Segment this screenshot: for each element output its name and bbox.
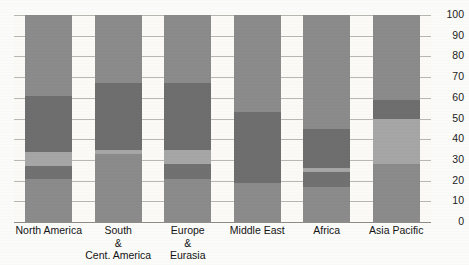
- bar-segment: [373, 164, 420, 222]
- y-tick-label-60: 60: [434, 92, 464, 103]
- x-axis-category-label: Asia Pacific: [348, 224, 444, 237]
- bar-segment: [164, 164, 211, 178]
- bar-segment: [164, 179, 211, 222]
- gridline-30: [14, 160, 431, 161]
- y-tick-label-40: 40: [434, 133, 464, 144]
- bar-segment: [95, 154, 142, 222]
- stacked-bar-chart: 1009080706050403020100 North AmericaSout…: [0, 0, 469, 265]
- bar-segment: [164, 150, 211, 164]
- y-tick-label-10: 10: [434, 195, 464, 206]
- gridline-50: [14, 119, 431, 120]
- bar-segment: [95, 150, 142, 154]
- gridline-90: [14, 36, 431, 37]
- plot-area: [14, 15, 431, 222]
- bar-3: [234, 15, 281, 222]
- bar-segment: [234, 183, 281, 222]
- y-tick-label-80: 80: [434, 50, 464, 61]
- bar-segment: [234, 112, 281, 182]
- bar-segment: [25, 15, 72, 96]
- bar-segment: [95, 15, 142, 83]
- gridline-0: [14, 222, 431, 223]
- gridline-40: [14, 139, 431, 140]
- bar-segment: [234, 15, 281, 112]
- bar-segment: [25, 166, 72, 178]
- bar-segment: [373, 119, 420, 165]
- y-tick-label-70: 70: [434, 71, 464, 82]
- bar-segment: [303, 187, 350, 222]
- bar-segment: [303, 168, 350, 172]
- gridline-10: [14, 201, 431, 202]
- x-axis: North AmericaSouth & Cent. AmericaEurope…: [0, 224, 434, 265]
- bar-segment: [303, 172, 350, 186]
- bar-segment: [25, 96, 72, 152]
- y-tick-label-30: 30: [434, 154, 464, 165]
- bar-segment: [25, 152, 72, 166]
- bar-1: [95, 15, 142, 222]
- y-tick-label-90: 90: [434, 30, 464, 41]
- gridline-80: [14, 56, 431, 57]
- bar-segment: [303, 129, 350, 168]
- gridline-20: [14, 181, 431, 182]
- y-tick-label-50: 50: [434, 113, 464, 124]
- gridline-60: [14, 98, 431, 99]
- bar-segment: [373, 15, 420, 100]
- y-tick-label-20: 20: [434, 175, 464, 186]
- gridline-100: [14, 15, 431, 16]
- bar-segment: [25, 179, 72, 222]
- y-tick-label-100: 100: [434, 9, 464, 20]
- bar-2: [164, 15, 211, 222]
- bar-5: [373, 15, 420, 222]
- bar-4: [303, 15, 350, 222]
- gridline-70: [14, 77, 431, 78]
- bar-segment: [373, 100, 420, 119]
- bar-segment: [95, 83, 142, 149]
- bar-segment: [164, 15, 211, 83]
- bar-segment: [164, 83, 211, 149]
- bar-0: [25, 15, 72, 222]
- bar-segment: [303, 15, 350, 129]
